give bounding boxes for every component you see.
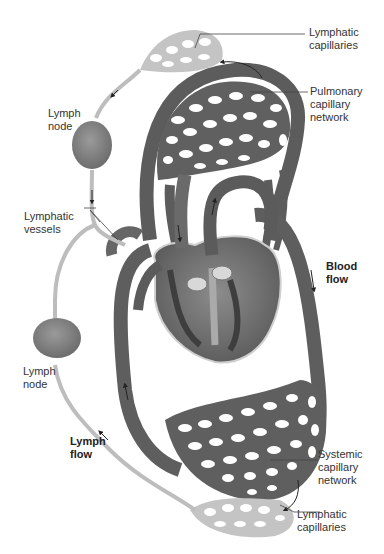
lymph-node-bottom [33, 318, 81, 358]
label-lymphatic-capillaries-bottom: Lymphatic capillaries [297, 508, 347, 534]
label-lymphatic-vessels: Lymphatic vessels [24, 210, 74, 236]
label-lymph-flow: Lymph flow [70, 435, 106, 461]
label-blood-flow: Blood flow [326, 260, 357, 286]
label-lymphatic-capillaries-top: Lymphatic capillaries [309, 26, 359, 52]
label-pulmonary-capillary-network: Pulmonary capillary network [310, 85, 363, 124]
label-systemic-capillary-network: Systemic capillary network [318, 448, 363, 487]
label-lymph-node-top: Lymph node [48, 107, 81, 133]
pulmonary-capillary-network [147, 70, 298, 262]
heart [138, 175, 281, 363]
systemic-capillary-network [165, 380, 326, 501]
label-lymph-node-bottom: Lymph node [23, 365, 56, 391]
